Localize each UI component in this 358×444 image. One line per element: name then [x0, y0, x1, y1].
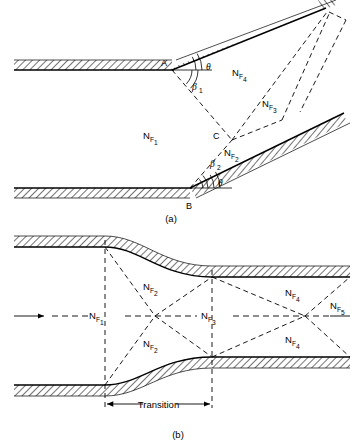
nf2ub-n: N: [143, 281, 150, 292]
nf4a-n: N: [232, 67, 239, 78]
nf3b-3: 3: [212, 319, 216, 326]
beta2-glyph: β: [209, 159, 215, 169]
nf1b-1: 1: [100, 319, 104, 326]
nf4ub-n: N: [285, 287, 292, 298]
nf1a-n: N: [143, 130, 150, 141]
nf2lb-2: 2: [154, 347, 158, 354]
caption-panel-a: (a): [165, 213, 177, 224]
beta1-subscript: 1: [199, 87, 203, 94]
caption-panel-b: (b): [172, 429, 184, 440]
beta1-glyph: β: [191, 82, 197, 92]
nf2a-n: N: [224, 147, 231, 158]
angle-label-theta-lower: θ: [218, 178, 223, 188]
nf5b-5: 5: [341, 309, 345, 316]
nf1a-1: 1: [154, 139, 158, 146]
nf3a-3: 3: [273, 107, 277, 114]
nf1b-n: N: [89, 310, 96, 321]
point-label-c: C: [213, 131, 220, 141]
nf2lb-n: N: [143, 338, 150, 349]
technical-diagram-svg: A B C θ β 1 β 2 θ N F 1 N F 2 N F 3: [0, 0, 358, 444]
beta2-subscript: 2: [217, 164, 221, 171]
point-label-b: B: [186, 201, 192, 211]
nf3b-n: N: [201, 310, 208, 321]
nf4lb-4: 4: [296, 343, 300, 350]
wall-lower-left: [14, 188, 192, 198]
nf4lb-n: N: [285, 334, 292, 345]
nf2a-2: 2: [235, 156, 239, 163]
transition-label: Transition: [138, 399, 179, 410]
nf4ub-4: 4: [296, 296, 300, 303]
nf4a-4: 4: [243, 76, 247, 83]
point-label-a: A: [161, 58, 167, 68]
angle-label-theta-upper: θ: [206, 62, 211, 72]
wall-upper-left: [14, 60, 174, 70]
nf3a-n: N: [262, 98, 269, 109]
figure-root: A B C θ β 1 β 2 θ N F 1 N F 2 N F 3: [0, 0, 358, 444]
nf5b-n: N: [330, 300, 337, 311]
nf2ub-2: 2: [154, 290, 158, 297]
